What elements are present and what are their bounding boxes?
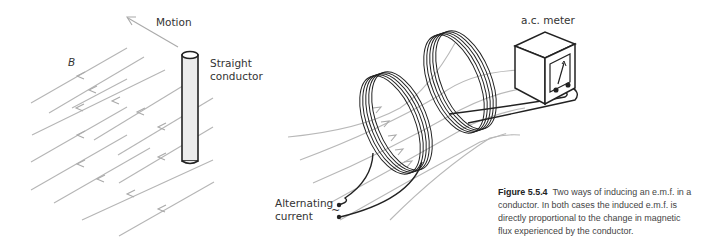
source-label-2: current bbox=[275, 210, 313, 223]
field-arrowheads bbox=[76, 72, 166, 212]
figure-caption: Figure 5.5.4 Two ways of inducing an e.m… bbox=[498, 185, 695, 237]
coil-field-arrowheads bbox=[373, 107, 412, 167]
source-label-1: Alternating bbox=[275, 197, 333, 210]
coil-field-lines bbox=[288, 43, 530, 220]
meter-label: a.c. meter bbox=[521, 14, 575, 27]
field-label: B bbox=[68, 56, 75, 69]
source-leads bbox=[338, 153, 422, 217]
conductor-label-2: conductor bbox=[210, 70, 263, 83]
ac-symbol-icon: ~ bbox=[331, 204, 340, 217]
conductor-label-1: Straight bbox=[210, 57, 252, 70]
figure-number: Figure 5.5.4 bbox=[498, 186, 548, 197]
straight-conductor bbox=[182, 52, 198, 164]
ac-meter bbox=[515, 32, 575, 104]
motion-label: Motion bbox=[156, 16, 192, 29]
